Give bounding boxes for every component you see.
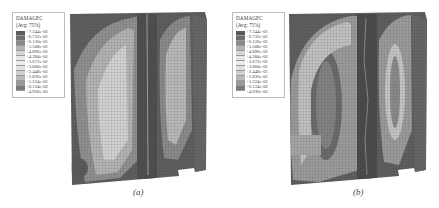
figure-panel-a: DAMAGEC (Avg: 75%) +7.344e-01 +6.732e-01… [0,0,219,208]
panel-caption-b: (b) [353,187,364,197]
fe-mesh-contour-a [0,0,219,208]
fe-mesh-contour-b [219,0,438,208]
panel-caption-a: (a) [133,187,144,197]
figure-panel-b: DAMAGEC (Avg: 75%) +7.344e-01 +6.732e-01… [219,0,438,208]
